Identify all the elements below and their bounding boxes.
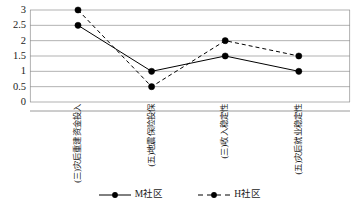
y-axis-tick-label: 0 <box>21 97 26 108</box>
data-point <box>75 22 81 28</box>
y-axis-tick-label: 2 <box>21 35 26 46</box>
legend-line-marker-icon <box>197 190 231 200</box>
y-axis-tick-label: 1.5 <box>13 51 26 62</box>
marker <box>222 53 228 59</box>
legend-label: M社区 <box>135 190 163 200</box>
data-point <box>222 38 228 44</box>
marker <box>75 22 81 28</box>
marker <box>149 68 155 74</box>
x-axis-tick-label: (五)灾后就业稳定性 <box>294 104 303 175</box>
x-axis-tick-label: (五)地震保险投保 <box>147 104 156 166</box>
marker <box>296 68 302 74</box>
legend-label: H社区 <box>234 190 261 200</box>
data-point <box>296 53 302 59</box>
plot-svg <box>30 10 350 102</box>
y-axis-tick-label: 0.5 <box>13 81 26 92</box>
x-axis-tick-label: (三)收入稳定性 <box>221 104 230 158</box>
marker <box>296 53 302 59</box>
legend-entry: H社区 <box>197 190 261 200</box>
data-point <box>75 7 81 13</box>
y-axis-tick-label: 3 <box>21 5 26 16</box>
marker <box>222 38 228 44</box>
data-point <box>149 68 155 74</box>
legend-line-marker-icon <box>98 190 132 200</box>
x-axis-tick-label: (三)灾后重建资金投入 <box>74 104 83 183</box>
data-point <box>296 68 302 74</box>
plot-area <box>30 10 350 102</box>
y-axis: 00.511.522.53 <box>0 0 26 222</box>
chart-legend: M社区H社区 <box>0 190 359 200</box>
y-axis-tick-label: 1 <box>21 66 26 77</box>
marker <box>149 84 155 90</box>
marker <box>75 7 81 13</box>
x-axis: (三)灾后重建资金投入(五)地震保险投保(三)收入稳定性(五)灾后就业稳定性 <box>30 104 350 186</box>
series-line-1 <box>78 25 299 71</box>
series-line-2 <box>78 10 299 87</box>
data-point <box>149 84 155 90</box>
legend-entry: M社区 <box>98 190 163 200</box>
line-chart: 00.511.522.53 (三)灾后重建资金投入(五)地震保险投保(三)收入稳… <box>0 0 359 222</box>
y-axis-tick-label: 2.5 <box>13 20 26 31</box>
data-point <box>222 53 228 59</box>
